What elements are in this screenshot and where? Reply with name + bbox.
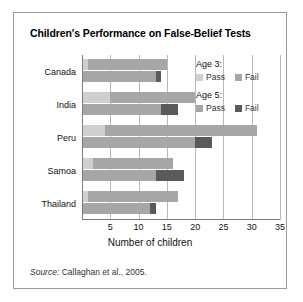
x-axis-ticks: 5101520253035 — [82, 222, 282, 236]
source-note: Source: Callaghan et al., 2005. — [30, 267, 147, 277]
chart-legend: Age 3:PassFailAge 5:PassFail — [196, 59, 259, 121]
legend-swatch-fail — [235, 105, 242, 112]
legend-label-pass: Pass — [206, 72, 225, 83]
legend-label-pass: Pass — [206, 103, 225, 114]
x-tick-label-25: 25 — [218, 222, 228, 232]
source-citation: Callaghan et al., 2005. — [59, 267, 146, 277]
legend-group-title: Age 3: — [196, 59, 259, 70]
x-tick-label-15: 15 — [162, 222, 172, 232]
legend-swatch-fail — [235, 74, 242, 81]
legend-swatch-pass — [196, 74, 203, 81]
legend-row: PassFail — [196, 72, 259, 83]
y-tick-label-peru: Peru — [14, 133, 76, 143]
legend-label-fail: Fail — [245, 103, 259, 114]
y-tick-label-thailand: Thailand — [14, 199, 76, 209]
x-tick-label-20: 20 — [190, 222, 200, 232]
y-tick-label-canada: Canada — [14, 67, 76, 77]
source-prefix: Source: — [30, 267, 59, 277]
x-tick-label-30: 30 — [247, 222, 257, 232]
legend-group-age3: Age 3:PassFail — [196, 59, 259, 83]
figure-panel: Children's Performance on False-Belief T… — [13, 12, 287, 289]
legend-label-fail: Fail — [245, 72, 259, 83]
y-tick-label-samoa: Samoa — [14, 166, 76, 176]
y-tick-label-india: India — [14, 100, 76, 110]
gridline-35 — [280, 55, 281, 220]
x-axis-label: Number of children — [14, 237, 286, 248]
legend-row: PassFail — [196, 103, 259, 114]
x-tick-label-10: 10 — [134, 222, 144, 232]
legend-group-title: Age 5: — [196, 90, 259, 101]
legend-group-age5: Age 5:PassFail — [196, 90, 259, 114]
y-axis-labels: CanadaIndiaPeruSamoaThailand — [14, 55, 82, 220]
chart-title: Children's Performance on False-Belief T… — [30, 27, 251, 39]
legend-swatch-pass — [196, 105, 203, 112]
x-tick-label-5: 5 — [108, 222, 113, 232]
x-tick-label-35: 35 — [275, 222, 285, 232]
